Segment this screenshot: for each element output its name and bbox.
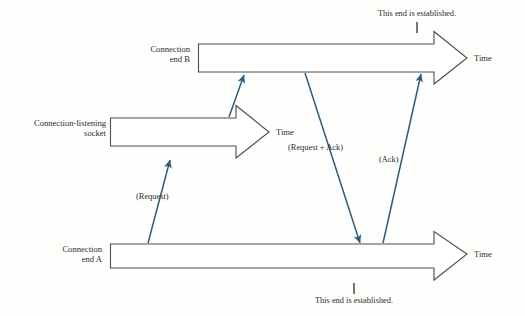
note-label-bottom: This end is established. (304, 296, 404, 306)
timeline-bar-connection-end-b (199, 32, 468, 85)
timeline-bar-connection-listening-socket (111, 106, 270, 159)
timeline-label-connection-end-a: Connection end A (16, 244, 102, 264)
timeline-bar-connection-end-a (111, 232, 468, 281)
time-axis-label-connection-end-b: Time (474, 53, 492, 63)
timeline-label-line1: Connection (16, 244, 102, 254)
message-arrow-request-plus-ack (305, 73, 360, 243)
timeline-label-connection-listening-socket: Connection-listening socket (0, 118, 106, 138)
note-label-top: This end is established. (367, 9, 467, 19)
message-label-request: (Request) (136, 192, 169, 202)
time-axis-label-connection-end-a: Time (474, 249, 492, 259)
diagram-canvas (0, 0, 525, 316)
message-label-request-plus-ack: (Request + Ack) (288, 143, 343, 153)
timeline-label-line2: end A (16, 254, 102, 264)
time-axis-label-connection-listening-socket: Time (276, 127, 294, 137)
timeline-label-line2: end B (104, 54, 190, 64)
message-label-ack: (Ack) (379, 155, 399, 165)
timeline-label-line2: socket (0, 128, 106, 138)
timeline-label-connection-end-b: Connection end B (104, 44, 190, 64)
connection-establishment-diagram: Connection end B Connection-listening so… (0, 0, 525, 316)
timeline-label-line1: Connection (104, 44, 190, 54)
timeline-label-line1: Connection-listening (0, 118, 106, 128)
